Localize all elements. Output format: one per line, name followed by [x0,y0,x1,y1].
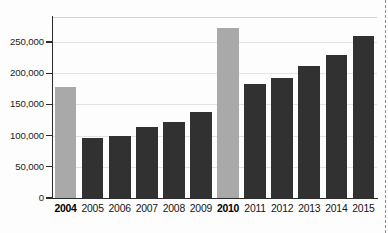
x-axis-label-2004: 2004 [52,203,79,214]
x-axis-label-2008: 2008 [160,203,187,214]
x-axis-label-2011: 2011 [242,203,269,214]
bar-2007 [136,127,158,198]
y-tick-label-0: 0 [0,192,44,203]
x-axis-label-2010: 2010 [215,203,242,214]
crop-marker-dashed-line [385,0,386,233]
bar-2010 [217,28,239,198]
y-tick-label-250000: 250,000 [0,36,44,47]
y-tick-label-200000: 200,000 [0,67,44,78]
x-axis-line [52,198,378,199]
y-tick-mark-0 [46,197,53,198]
y-tick-mark-50000 [46,166,53,167]
bar-chart: 050,000100,000150,000200,000250,000 2004… [0,0,388,233]
bar-2009 [190,112,212,198]
plot-area [52,17,377,198]
bar-2015 [353,36,375,198]
bar-2004 [55,87,77,198]
bar-2005 [82,138,104,198]
y-tick-mark-150000 [46,104,53,105]
y-axis-line [52,16,53,199]
y-tick-label-150000: 150,000 [0,98,44,109]
bar-2014 [326,55,348,198]
y-tick-label-100000: 100,000 [0,130,44,141]
bar-2011 [244,84,266,198]
x-axis-label-2007: 2007 [133,203,160,214]
y-tick-mark-250000 [46,41,53,42]
bar-2013 [298,66,320,198]
bar-series [52,17,377,198]
x-axis-label-2015: 2015 [350,203,377,214]
x-axis-labels: 2004200520062007200820092010201120122013… [52,203,378,223]
x-axis-label-2014: 2014 [323,203,350,214]
bar-2008 [163,122,185,198]
y-tick-mark-100000 [46,135,53,136]
x-axis-label-2006: 2006 [106,203,133,214]
x-axis-label-2013: 2013 [296,203,323,214]
bar-2012 [271,78,293,198]
bar-2006 [109,136,131,198]
x-axis-label-2012: 2012 [269,203,296,214]
y-tick-label-50000: 50,000 [0,161,44,172]
x-axis-label-2005: 2005 [79,203,106,214]
x-axis-label-2009: 2009 [187,203,214,214]
y-tick-mark-200000 [46,73,53,74]
